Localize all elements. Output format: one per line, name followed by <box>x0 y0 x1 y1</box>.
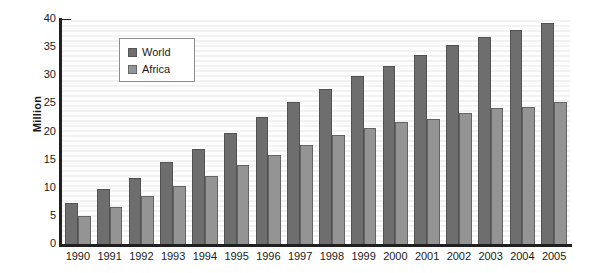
bar-group <box>221 20 253 245</box>
bar-world-2003 <box>478 37 491 245</box>
bar-world-2004 <box>510 30 523 245</box>
bar-world-1995 <box>224 133 237 246</box>
bar-africa-1999 <box>364 128 377 245</box>
bar-africa-1992 <box>141 196 154 246</box>
y-axis-tick-label: 30 <box>30 68 56 80</box>
bar-world-2000 <box>383 66 396 245</box>
chart-legend: WorldAfrica <box>119 38 195 82</box>
bar-world-1999 <box>351 76 364 245</box>
bar-africa-1995 <box>237 165 250 245</box>
bar-group <box>62 20 94 245</box>
legend-item-africa[interactable]: Africa <box>128 61 194 77</box>
y-axis-tick-label: 40 <box>30 12 56 24</box>
bar-world-1993 <box>160 162 173 245</box>
bar-group <box>475 20 507 245</box>
y-axis-tick-label: 20 <box>30 125 56 137</box>
bar-africa-1994 <box>205 176 218 245</box>
bar-group <box>443 20 475 245</box>
y-axis-tick-label: 25 <box>30 96 56 108</box>
x-axis-tick-label: 2002 <box>443 250 475 262</box>
bar-world-1990 <box>65 203 78 245</box>
x-axis-tick-label: 1995 <box>221 250 253 262</box>
x-axis-tick-label: 1992 <box>125 250 157 262</box>
bar-africa-1997 <box>300 145 313 245</box>
y-axis-tick-label: 5 <box>30 209 56 221</box>
bar-africa-2004 <box>522 107 535 245</box>
y-axis-tick-labels: 4035302520151050 <box>26 0 56 273</box>
bar-africa-1993 <box>173 186 186 245</box>
x-axis-tick-label: 2000 <box>379 250 411 262</box>
x-axis-tick-label: 2004 <box>506 250 538 262</box>
bar-chart-figure: Million 4035302520151050 199019911992199… <box>0 0 591 273</box>
x-axis-line <box>59 244 572 247</box>
bar-group <box>380 20 412 245</box>
bar-world-2005 <box>541 23 554 245</box>
y-axis-line <box>59 18 62 247</box>
y-axis-tick-label: 35 <box>30 40 56 52</box>
x-axis-tick-label: 2003 <box>475 250 507 262</box>
bar-group <box>411 20 443 245</box>
bar-world-1998 <box>319 89 332 245</box>
bar-group <box>316 20 348 245</box>
bar-africa-2005 <box>554 102 567 245</box>
x-axis-tick-label: 1990 <box>62 250 94 262</box>
legend-item-world[interactable]: World <box>128 44 194 60</box>
x-axis-tick-label: 2005 <box>538 250 570 262</box>
x-axis-tick-label: 2001 <box>411 250 443 262</box>
bar-group <box>253 20 285 245</box>
bar-africa-1991 <box>110 207 123 245</box>
bar-world-1996 <box>256 117 269 245</box>
bar-africa-2000 <box>395 122 408 245</box>
bar-world-1992 <box>129 178 142 246</box>
bar-africa-2001 <box>427 119 440 245</box>
legend-swatch-icon <box>128 48 137 57</box>
bar-group <box>507 20 539 245</box>
bar-group <box>538 20 570 245</box>
x-axis-tick-label: 1994 <box>189 250 221 262</box>
bar-group <box>284 20 316 245</box>
y-axis-tick-label: 15 <box>30 153 56 165</box>
bar-africa-1996 <box>268 155 281 245</box>
y-axis-tick-label: 10 <box>30 181 56 193</box>
bar-world-1991 <box>97 189 110 245</box>
bar-world-1997 <box>287 102 300 245</box>
bar-africa-1990 <box>78 216 91 245</box>
bar-africa-2003 <box>491 108 504 245</box>
x-axis-tick-label: 1997 <box>284 250 316 262</box>
bar-world-2001 <box>414 55 427 245</box>
x-axis-tick-label: 1998 <box>316 250 348 262</box>
x-axis-tick-label: 1991 <box>94 250 126 262</box>
legend-item-label: Africa <box>142 63 170 75</box>
bar-africa-2002 <box>459 113 472 245</box>
x-axis-tick-label: 1996 <box>252 250 284 262</box>
x-axis-tick-label: 1993 <box>157 250 189 262</box>
bar-africa-1998 <box>332 135 345 245</box>
y-axis-tick-label: 0 <box>30 237 56 249</box>
bar-world-1994 <box>192 149 205 245</box>
legend-swatch-icon <box>128 65 137 74</box>
x-axis-tick-label: 1999 <box>348 250 380 262</box>
legend-item-label: World <box>142 46 171 58</box>
bar-world-2002 <box>446 45 459 245</box>
bar-group <box>348 20 380 245</box>
